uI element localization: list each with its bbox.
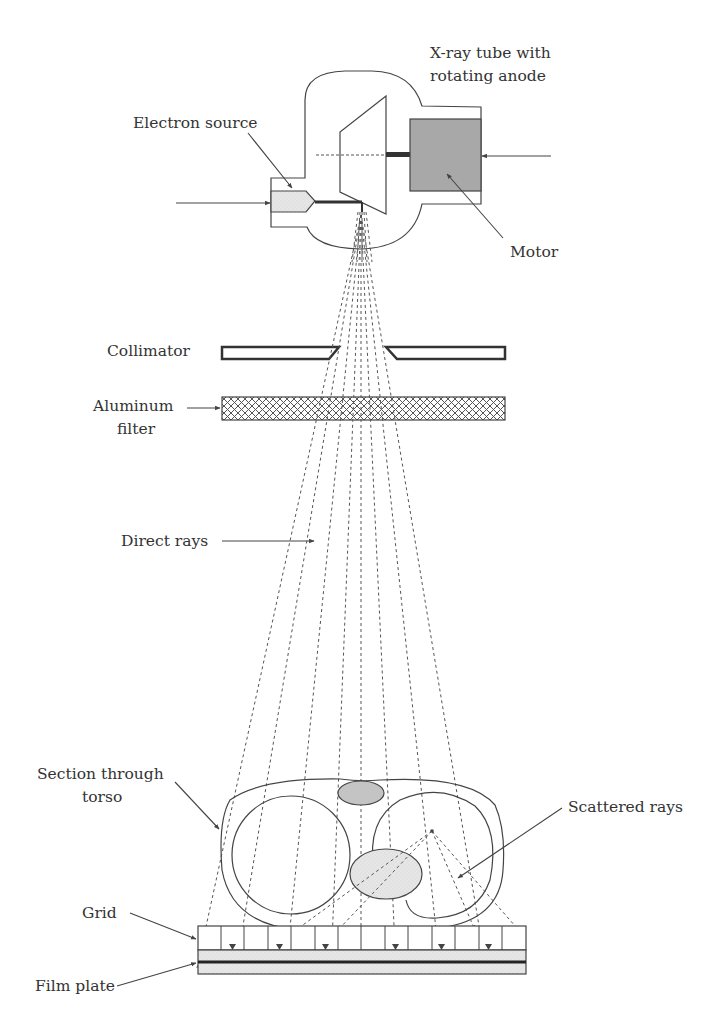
label-xray-tube-1: X-ray tube with — [430, 44, 551, 62]
label-section-torso-2: torso — [82, 788, 122, 806]
label-film-plate: Film plate — [35, 977, 115, 995]
label-section-torso-1: Section through — [37, 765, 164, 783]
xray-imaging-diagram: X-ray tube with rotating anode Electron … — [0, 0, 723, 1035]
collimator-left-plate — [222, 347, 339, 359]
heart — [350, 849, 422, 899]
direct-rays — [197, 215, 486, 972]
electron-source — [271, 191, 315, 212]
collimator — [222, 347, 505, 359]
label-scattered-rays: Scattered rays — [568, 798, 683, 816]
label-grid: Grid — [82, 904, 117, 922]
anode-shaft — [386, 152, 410, 157]
label-aluminum-filter-1: Aluminum — [92, 397, 174, 415]
label-direct-rays: Direct rays — [121, 532, 208, 550]
leader-scattered-rays — [458, 808, 562, 878]
aluminum-filter — [222, 397, 505, 420]
label-electron-source: Electron source — [133, 114, 258, 132]
labels: X-ray tube with rotating anode Electron … — [35, 44, 683, 995]
leader-film-plate — [117, 963, 196, 986]
spine — [338, 781, 384, 805]
film-plate — [198, 950, 526, 974]
label-aluminum-filter-2: filter — [117, 420, 156, 438]
motor — [410, 119, 481, 191]
collimator-right-plate — [386, 347, 505, 359]
anti-scatter-grid — [198, 926, 526, 950]
focal-beam-origin — [352, 212, 372, 262]
label-collimator: Collimator — [107, 342, 191, 360]
label-xray-tube-2: rotating anode — [430, 67, 546, 85]
leader-section-torso — [175, 782, 219, 829]
label-motor: Motor — [510, 243, 559, 261]
xray-tube — [176, 71, 551, 249]
leader-grid — [130, 913, 196, 939]
left-lung — [232, 796, 350, 914]
leader-electron-source — [248, 133, 292, 188]
